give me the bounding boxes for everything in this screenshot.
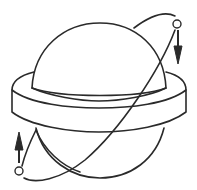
precession-diagram (0, 0, 197, 190)
band-top-front (12, 90, 186, 132)
orbit-lower-back (36, 130, 80, 172)
diagram-canvas (0, 0, 197, 190)
arrow-down-icon (174, 30, 182, 64)
sphere-lower (36, 128, 164, 178)
orbit-left-segment (22, 130, 36, 166)
orbit-back-arc (134, 14, 175, 28)
body-upper-right (173, 20, 181, 28)
arrow-up-icon (15, 132, 23, 163)
body-lower-left (15, 167, 23, 175)
